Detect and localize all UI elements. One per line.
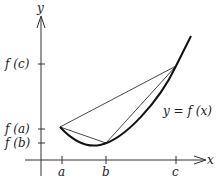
- x-axis: [25, 156, 206, 164]
- y-tick-fb: f (b): [4, 136, 31, 150]
- function-curve: [60, 36, 191, 146]
- x-axis-label: x: [207, 153, 214, 167]
- convex-function-diagram: y x a b c f (c) f (a) f (b) y = f (x): [0, 0, 223, 182]
- x-tick-b: b: [102, 165, 110, 179]
- y-axis-label: y: [36, 1, 44, 15]
- x-tick-c: c: [172, 165, 179, 179]
- x-tick-a: a: [58, 165, 65, 179]
- secant-lines: [60, 66, 176, 143]
- y-axis: [37, 16, 45, 176]
- y-tick-fa: f (a): [4, 122, 30, 136]
- y-tick-fc: f (c): [4, 57, 30, 71]
- curve-label: y = f (x): [162, 104, 212, 118]
